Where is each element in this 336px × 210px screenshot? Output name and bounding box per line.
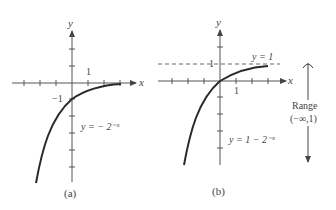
panel-a-curve	[36, 84, 121, 183]
panel-b-y-tick-label: 1	[209, 59, 214, 69]
panel-b-caption: (b)	[212, 186, 225, 197]
panel-a-y-axis-label: y	[68, 18, 73, 29]
panel-a-y-tick-label: −1	[52, 94, 63, 104]
panel-a-equation: y = − 2⁻ˣ	[81, 122, 119, 132]
panel-a-x-tick-label: 1	[86, 67, 91, 77]
range-value: (−∞,1)	[290, 114, 317, 124]
panel-b-x-axis-label: x	[288, 75, 293, 86]
figure-canvas	[0, 0, 336, 210]
panel-b-asymptote-label: y = 1	[252, 52, 273, 62]
panel-b-x-tick-label: 1	[234, 86, 239, 96]
panel-a-caption: (a)	[64, 188, 76, 199]
panel-b-y-axis-label: y	[216, 17, 221, 28]
panel-a-graph	[12, 31, 136, 183]
range-label: Range	[292, 101, 318, 111]
panel-a-x-axis-label: x	[139, 77, 144, 88]
panel-b-equation: y = 1 − 2⁻ˣ	[229, 135, 275, 145]
